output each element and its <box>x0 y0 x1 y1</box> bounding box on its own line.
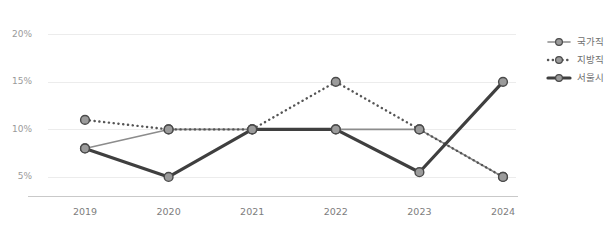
legend-label: 지방직 <box>577 54 604 65</box>
legend-marker-icon <box>556 75 563 82</box>
legend-label: 서울시 <box>577 72 604 83</box>
data-point[interactable] <box>164 125 173 134</box>
chart-background <box>0 0 616 240</box>
legend-marker-icon <box>556 39 563 46</box>
data-point[interactable] <box>415 168 424 177</box>
y-tick-label: 10% <box>12 124 32 134</box>
x-tick-label-2023: 2023 <box>407 206 431 217</box>
x-tick-label-2024: 2024 <box>491 206 515 217</box>
data-point[interactable] <box>81 144 90 153</box>
legend-label: 국가직 <box>577 36 604 47</box>
data-point[interactable] <box>331 77 340 86</box>
y-tick-label: 5% <box>18 171 33 181</box>
x-tick-label-2022: 2022 <box>324 206 348 217</box>
y-tick-label: 15% <box>12 76 32 86</box>
data-point[interactable] <box>248 125 257 134</box>
data-point[interactable] <box>499 173 508 182</box>
chart-canvas: 20%15%10%5% 201920202021202220232024 국가직… <box>0 0 616 240</box>
line-chart: 20%15%10%5% 201920202021202220232024 국가직… <box>0 0 616 240</box>
data-point[interactable] <box>415 125 424 134</box>
legend-marker-icon <box>556 57 563 64</box>
x-tick-label-2020: 2020 <box>157 206 181 217</box>
y-tick-label: 20% <box>12 29 32 39</box>
x-tick-label-2021: 2021 <box>240 206 264 217</box>
data-point[interactable] <box>164 173 173 182</box>
data-point[interactable] <box>81 115 90 124</box>
x-tick-label-2019: 2019 <box>73 206 97 217</box>
data-point[interactable] <box>331 125 340 134</box>
data-point[interactable] <box>499 77 508 86</box>
